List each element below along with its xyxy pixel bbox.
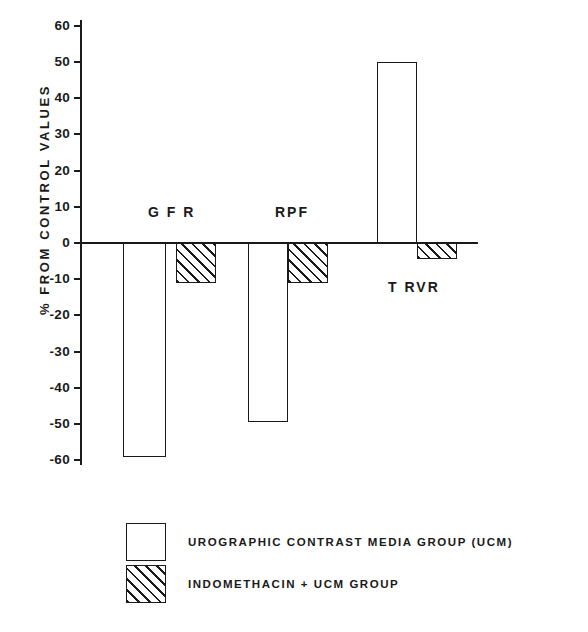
bar-hatched-2 [288,243,328,283]
y-tick-label: -10 [14,272,70,286]
y-tick-mark [74,61,81,63]
plot-area: % FROM CONTROL VALUES 6050403020100-10-2… [0,0,588,500]
y-tick-row: -50 [0,424,70,425]
y-tick-row: -60 [0,460,70,461]
y-tick-mark [74,25,81,27]
y-tick-mark [74,314,81,316]
chart-legend: UROGRAPHIC CONTRAST MEDIA GROUP (UCM)IND… [126,521,566,605]
legend-item: UROGRAPHIC CONTRAST MEDIA GROUP (UCM) [126,521,566,563]
y-tick-mark [74,351,81,353]
y-tick-row: -30 [0,352,70,353]
y-tick-label: 10 [14,200,70,214]
legend-swatch-solid [126,523,166,561]
y-tick-label: 60 [14,19,70,33]
y-tick-mark [74,97,81,99]
y-tick-label: -30 [14,345,70,359]
y-tick-row: 40 [0,98,70,99]
y-tick-mark [74,206,81,208]
y-tick-mark [74,387,81,389]
y-tick-label: 40 [14,91,70,105]
y-tick-label: 20 [14,164,70,178]
bar-hatched-1 [176,243,216,283]
y-tick-row: 10 [0,207,70,208]
y-tick-mark [74,242,81,244]
y-tick-mark [74,278,81,280]
y-tick-row: -40 [0,388,70,389]
group-label: T RVR [388,279,440,295]
y-tick-mark [74,133,81,135]
y-tick-mark [74,459,81,461]
legend-item: INDOMETHACIN + UCM GROUP [126,563,566,605]
bar-chart-figure: % FROM CONTROL VALUES 6050403020100-10-2… [0,0,588,632]
bar-hatched-3 [417,243,457,259]
bar-solid-2 [248,243,288,422]
group-label: G F R [148,204,195,220]
bar-solid-1 [123,243,166,457]
y-tick-label: -20 [14,308,70,322]
y-tick-label: -50 [14,417,70,431]
legend-label: UROGRAPHIC CONTRAST MEDIA GROUP (UCM) [188,536,513,548]
y-tick-mark [74,170,81,172]
y-tick-row: 30 [0,134,70,135]
y-tick-label: -40 [14,381,70,395]
y-tick-row: 20 [0,171,70,172]
y-tick-row: 50 [0,62,70,63]
y-tick-row: -10 [0,279,70,280]
y-tick-mark [74,423,81,425]
y-tick-row: -20 [0,315,70,316]
y-tick-label: 50 [14,55,70,69]
group-label: RPF [275,204,309,220]
bar-solid-3 [377,62,417,243]
y-tick-label: 0 [14,236,70,250]
legend-swatch-hatched [126,565,166,603]
legend-label: INDOMETHACIN + UCM GROUP [188,578,399,590]
y-tick-label: 30 [14,127,70,141]
y-tick-label: -60 [14,453,70,467]
y-tick-row: 60 [0,26,70,27]
y-tick-row: 0 [0,243,70,244]
